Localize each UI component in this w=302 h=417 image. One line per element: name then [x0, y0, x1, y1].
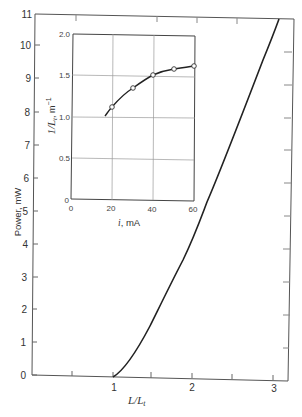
data-point-marker — [131, 86, 136, 91]
y-tick-7: 7 — [24, 140, 30, 151]
data-point-marker — [192, 64, 197, 69]
inset-y-tick-1-0: 1.0 — [59, 113, 71, 122]
data-point-marker — [110, 105, 115, 110]
y-tick-11: 11 — [22, 9, 33, 20]
y-tick-4: 4 — [22, 239, 28, 250]
x-tick-2: 2 — [189, 382, 195, 393]
inset-y-tick-0-5: 0.5 — [59, 154, 71, 163]
y-tick-2: 2 — [21, 304, 27, 315]
y-tick-3: 3 — [21, 272, 27, 283]
data-point-marker — [151, 73, 156, 78]
inset-x-axis-title: ii, mA, mA — [118, 217, 141, 228]
inset-x-tick-20: 20 — [107, 204, 116, 213]
inset-x-tick-60: 60 — [189, 205, 198, 214]
inset-plot: 0 0.5 1.0 1.5 2.0 0 20 40 60 ii, mA, mA … — [45, 30, 198, 228]
inset-x-tick-labels: 0 20 40 60 — [69, 204, 198, 214]
inset-x-tick-0: 0 — [69, 204, 74, 213]
inset-y-tick-2-0: 2.0 — [59, 30, 71, 39]
x-tick-1: 1 — [111, 382, 117, 393]
y-tick-5: 5 — [22, 206, 28, 217]
inset-y-axis-title: 1/Lt, m−1 — [45, 97, 59, 134]
main-x-axis-title: L/Lt — [127, 394, 146, 408]
chart-canvas: 0 1 2 3 4 5 6 7 8 9 10 11 1 2 3 Power, m… — [0, 0, 302, 417]
inset-y-tick-1-5: 1.5 — [59, 71, 71, 80]
main-x-tick-labels: 1 2 3 — [111, 382, 277, 394]
y-tick-8: 8 — [24, 107, 30, 118]
inset-x-tick-40: 40 — [148, 205, 157, 214]
inset-y-tick-labels: 0 0.5 1.0 1.5 2.0 — [59, 30, 71, 205]
y-tick-1: 1 — [20, 337, 26, 348]
data-point-marker — [172, 67, 177, 72]
y-tick-10: 10 — [20, 40, 32, 51]
y-tick-6: 6 — [23, 173, 29, 184]
y-tick-9: 9 — [25, 73, 31, 84]
main-top-ticks — [76, 15, 237, 24]
x-tick-3: 3 — [271, 383, 277, 394]
main-y-axis-title: Power, mW — [12, 188, 23, 237]
y-tick-0: 0 — [20, 370, 26, 381]
